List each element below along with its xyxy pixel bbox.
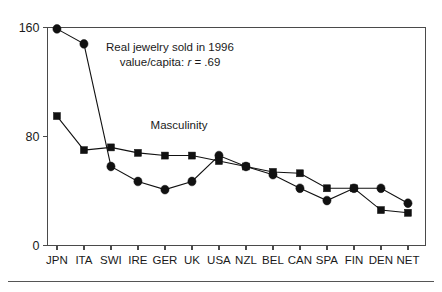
x-tick-label-jpn: JPN [46, 254, 68, 266]
data-point-ire [134, 149, 141, 156]
x-tick-label-ire: IRE [128, 254, 148, 266]
masculinity-series-label: Masculinity [151, 119, 208, 131]
y-tick-labels: 080160 [19, 21, 40, 253]
chart-annotations: Real jewelry sold in 1996 value/capita: … [106, 41, 234, 131]
y-axis-ticks [43, 28, 48, 246]
data-point-swi [107, 144, 114, 151]
data-point-net [404, 199, 412, 208]
data-point-usa [215, 158, 222, 165]
series-group [53, 24, 412, 216]
data-point-can [296, 184, 304, 193]
data-point-jpn [53, 24, 61, 33]
data-point-bel [269, 168, 276, 175]
data-point-nzl [242, 163, 249, 170]
data-point-jpn [53, 113, 60, 120]
data-point-fin [350, 185, 357, 192]
correlation-value: = .69 [191, 56, 220, 68]
x-tick-label-usa: USA [207, 254, 231, 266]
jewelry-annotation-line2-prefix: value/capita: [120, 56, 188, 68]
data-point-ire [134, 177, 142, 186]
x-tick-label-ger: GER [152, 254, 177, 266]
x-tick-label-net: NET [396, 254, 419, 266]
data-point-ita [80, 147, 87, 154]
x-tick-label-den: DEN [369, 254, 393, 266]
data-point-can [296, 170, 303, 177]
data-point-swi [107, 162, 115, 171]
chart-figure: JPNITASWIIREGERUKUSANZLBELCANSPAFINDENNE… [0, 0, 442, 292]
y-tick-label-160: 160 [19, 21, 40, 35]
data-point-ger [161, 185, 169, 194]
data-point-ita [80, 39, 88, 48]
data-point-uk [188, 177, 196, 186]
series-line [57, 29, 408, 203]
x-tick-label-can: CAN [288, 254, 312, 266]
data-point-den [377, 184, 385, 193]
x-tick-label-swi: SWI [100, 254, 122, 266]
jewelry-annotation-line1: Real jewelry sold in 1996 [106, 41, 234, 53]
data-point-spa [323, 196, 331, 205]
x-tick-label-spa: SPA [316, 254, 338, 266]
x-tick-label-uk: UK [184, 254, 200, 266]
data-point-spa [323, 185, 330, 192]
y-tick-label-0: 0 [33, 239, 40, 253]
x-tick-label-bel: BEL [262, 254, 284, 266]
line-chart: JPNITASWIIREGERUKUSANZLBELCANSPAFINDENNE… [0, 0, 442, 292]
data-point-uk [188, 152, 195, 159]
y-tick-label-80: 80 [26, 130, 40, 144]
data-point-net [404, 209, 411, 216]
x-tick-labels: JPNITASWIIREGERUKUSANZLBELCANSPAFINDENNE… [46, 254, 419, 266]
data-point-den [377, 207, 384, 214]
x-axis-ticks [57, 246, 408, 251]
x-tick-label-ita: ITA [75, 254, 92, 266]
data-point-ger [161, 152, 168, 159]
jewelry-annotation-line2: value/capita: r = .69 [120, 56, 221, 68]
x-tick-label-fin: FIN [345, 254, 364, 266]
x-tick-label-nzl: NZL [235, 254, 257, 266]
